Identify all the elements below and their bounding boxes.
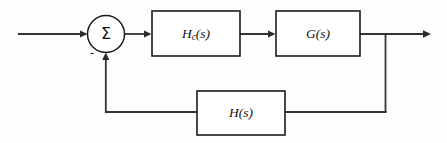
block-feedback-label-arg: (s): [239, 105, 254, 120]
block-diagram-svg: Σ - Hc(s) G(s) H(s): [0, 0, 447, 143]
block-plant-label: G(s): [306, 26, 330, 41]
block-plant-label-main: G: [306, 26, 316, 41]
block-feedback[interactable]: H(s): [197, 91, 285, 135]
error-arrowhead: [144, 30, 152, 37]
signal-control-line: [240, 30, 276, 37]
block-plant[interactable]: G(s): [276, 11, 360, 56]
negative-sign-label: -: [90, 46, 94, 60]
sigma-icon: Σ: [101, 24, 111, 43]
block-controller-label: Hc(s): [181, 26, 211, 42]
control-arrowhead: [268, 30, 276, 37]
feedback-arrowhead: [102, 53, 109, 61]
block-feedback-label: H(s): [228, 105, 253, 120]
block-controller-label-arg: (s): [196, 26, 211, 41]
summing-junction[interactable]: Σ -: [88, 16, 125, 60]
signal-error-line: [125, 30, 152, 37]
input-arrowhead: [80, 30, 88, 37]
output-arrowhead: [423, 30, 431, 38]
signal-input-line: [18, 30, 88, 37]
block-plant-label-arg: (s): [316, 26, 331, 41]
block-controller[interactable]: Hc(s): [152, 11, 240, 56]
signal-output-line: [360, 30, 431, 38]
block-diagram-canvas: Σ - Hc(s) G(s) H(s): [0, 0, 447, 143]
